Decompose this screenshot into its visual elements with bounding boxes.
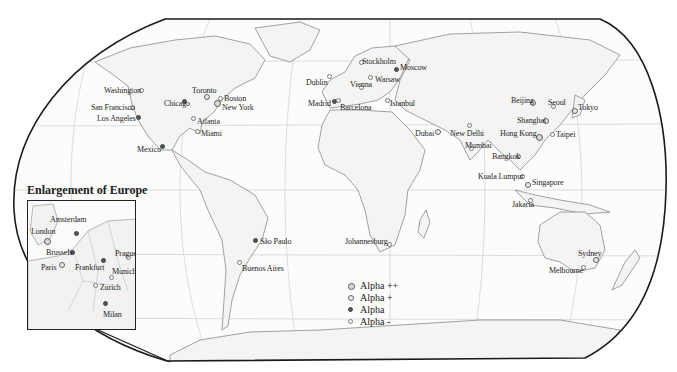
- city-label-barcelona: Barcelona: [340, 103, 372, 112]
- city-marker-milan: [103, 301, 108, 306]
- city-label-boston: Boston: [224, 94, 246, 103]
- city-label-munich: Munich: [112, 267, 136, 276]
- city-marker-atlanta: [191, 116, 196, 121]
- city-label-shanghai: Shanghai: [517, 116, 546, 125]
- city-marker-new-york: [214, 100, 221, 107]
- city-label-moscow: Moscow: [400, 63, 427, 72]
- city-marker-hong-kong: [536, 134, 543, 141]
- city-label-hong-kong: Hong Kong: [500, 129, 537, 138]
- city-label-new-york: New York: [222, 103, 254, 112]
- city-marker-london: [44, 238, 51, 245]
- city-label-milan: Milan: [103, 310, 122, 319]
- city-label-sao-paulo: São Paulo: [260, 237, 291, 246]
- city-label-prague: Prague: [115, 249, 136, 258]
- city-label-warsaw: Warsaw: [375, 75, 400, 84]
- city-label-madrid: Madrid: [308, 99, 331, 108]
- legend-label: Alpha -: [360, 316, 390, 328]
- legend-marker-icon: [348, 283, 355, 290]
- city-label-los-angeles: Los Angeles: [97, 114, 136, 123]
- city-label-paris: Paris: [41, 263, 57, 272]
- legend-marker-icon: [348, 295, 354, 301]
- legend-marker-icon: [348, 307, 353, 312]
- legend-label: Alpha ++: [360, 280, 398, 292]
- city-label-zurich: Zurich: [100, 283, 121, 292]
- city-label-toronto: Toronto: [192, 86, 217, 95]
- city-label-singapore: Singapore: [532, 178, 564, 187]
- city-label-bangkok: Bangkok: [492, 152, 520, 161]
- city-marker-dubai: [435, 129, 441, 135]
- city-label-buenos-aires: Buenos Aires: [242, 264, 284, 273]
- city-label-tokyo: Tokyo: [578, 103, 598, 112]
- city-label-london: London: [31, 227, 55, 236]
- legend-marker-icon: [348, 319, 353, 324]
- city-marker-moscow: [394, 67, 399, 72]
- city-label-atlanta: Atlanta: [197, 117, 220, 126]
- city-label-istanbul: Istanbul: [390, 99, 415, 108]
- city-label-seoul: Seoul: [548, 98, 566, 107]
- city-marker-miami: [195, 129, 200, 134]
- city-label-johannesburg: Johannesburg: [345, 237, 388, 246]
- city-label-beijing: Beijing: [511, 96, 534, 105]
- europe-inset: LondonAmsterdamBrusselsParisFrankfurtPra…: [27, 200, 136, 330]
- city-label-taipei: Taipei: [556, 130, 575, 139]
- city-label-melbourne: Melbourne: [549, 266, 583, 275]
- legend-label: Alpha +: [360, 292, 393, 304]
- city-label-amsterdam: Amsterdam: [50, 215, 86, 224]
- city-label-kuala-lumpur: Kuala Lumpur: [478, 172, 524, 181]
- city-label-san-francisco: San Francisco: [91, 103, 135, 112]
- city-label-vienna: Vienna: [350, 80, 372, 89]
- legend-label: Alpha: [360, 304, 384, 316]
- city-marker-taipei: [550, 132, 555, 137]
- city-label-new-delhi: New Delhi: [450, 129, 484, 138]
- city-marker-new-delhi: [467, 123, 472, 128]
- city-label-brussels: Brussels: [46, 248, 72, 257]
- city-label-mumbai: Mumbai: [465, 141, 492, 150]
- city-label-dubai: Dubai: [415, 129, 434, 138]
- city-marker-sao-paulo: [253, 238, 258, 243]
- city-label-sydney: Sydney: [578, 249, 601, 258]
- city-label-mexico: Mexico: [137, 145, 161, 154]
- inset-title: Enlargement of Europe: [27, 183, 147, 198]
- city-marker-singapore: [525, 182, 531, 188]
- city-marker-zurich: [93, 283, 98, 288]
- city-marker-paris: [59, 262, 65, 268]
- city-label-washington: Washington: [104, 86, 141, 95]
- city-label-miami: Miami: [201, 129, 222, 138]
- city-label-chicago: Chicago: [164, 99, 190, 108]
- city-marker-amsterdam: [74, 231, 79, 236]
- city-marker-los-angeles: [136, 115, 141, 120]
- city-label-stockholm: Stockholm: [362, 57, 396, 66]
- city-label-frankfurt: Frankfurt: [75, 263, 104, 272]
- city-label-jakarta: Jakarta: [512, 200, 534, 209]
- city-label-dublin: Dublin: [306, 78, 328, 87]
